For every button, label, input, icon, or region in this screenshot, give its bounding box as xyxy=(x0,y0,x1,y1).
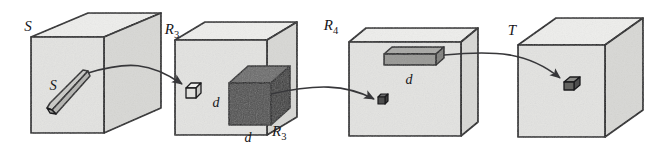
box-r3-label: R3 xyxy=(164,21,179,40)
box-r3: d d R3 R3 xyxy=(164,21,297,145)
box-r4-label: R4 xyxy=(323,17,339,36)
figure-canvas: S S d d R3 xyxy=(0,0,672,160)
box-r4: d R4 xyxy=(323,17,478,136)
slab-dim-label: d xyxy=(406,72,414,87)
dark-cube-front-face xyxy=(229,83,271,125)
dark-cube-bottom-dim-label: d xyxy=(245,130,253,145)
dark-cube-left-dim-label: d xyxy=(213,95,221,110)
tiny-cube-front-face xyxy=(378,97,385,104)
box-t-label: T xyxy=(508,22,518,38)
box-r4-right-face xyxy=(461,28,478,136)
t-tiny-cube-front-face xyxy=(564,82,574,90)
box-t-front-face xyxy=(518,45,605,137)
box-r3-dark-cube-object xyxy=(229,66,290,125)
box-r4-tiny-cube-object xyxy=(378,94,388,104)
box-r4-top-face xyxy=(349,28,478,42)
box-s-label: S xyxy=(24,18,32,34)
box-t: T xyxy=(508,18,643,137)
box-s: S S xyxy=(24,13,161,133)
box-s-inner-label: S xyxy=(49,77,57,93)
dark-cube-name-label: R3 xyxy=(271,123,286,142)
box-r4-slab-object xyxy=(384,47,444,65)
embedding-chain-figure: S S d d R3 xyxy=(0,0,672,160)
slab-front-face xyxy=(384,54,436,65)
slab-top-face xyxy=(384,47,444,54)
small-cube-front-face xyxy=(186,88,196,98)
box-r3-small-cube-object xyxy=(186,83,201,98)
